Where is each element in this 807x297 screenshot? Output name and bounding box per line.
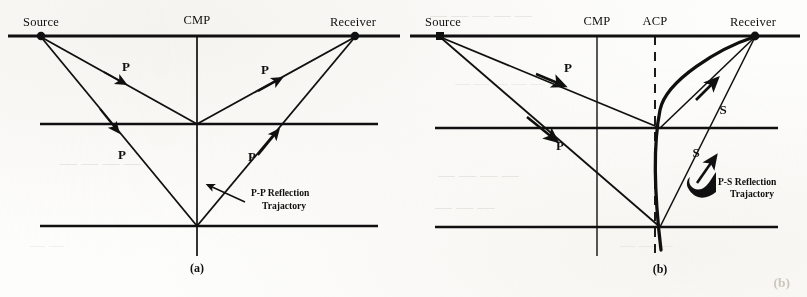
panel-a-arrow-p-down-shallow [104, 72, 122, 82]
panel-a-wave-label-2: P [261, 62, 269, 77]
panel-b-wave-label-3: S [719, 102, 726, 117]
svg-text:— — — —: — — — — [437, 165, 520, 184]
panel-a-cmp-label: CMP [183, 13, 210, 27]
panel-a-receiver-marker [351, 32, 359, 40]
panel-b-source-marker [436, 32, 444, 40]
panel-b-annotation-line1: P-S Reflection [718, 176, 777, 187]
panel-a-source-marker [37, 32, 45, 40]
svg-text:— — —: — — — [434, 197, 496, 216]
panel-a-ray-p-down-deep [41, 37, 197, 226]
figure-root: — — — — — — — — — — — — — — — — — — — — … [0, 0, 807, 297]
seismic-raypath-figure: — — — — — — — — — — — — — — — — — — — — … [0, 0, 807, 297]
figure-caption-fragment: (b) [774, 275, 791, 290]
panel-b-arrow-s-up-deep [697, 160, 713, 183]
panel-a-wave-label-1: P [122, 59, 130, 74]
panel-b-source-label: Source [425, 15, 461, 29]
panel-a-annotation-line1: P-P Reflection [251, 187, 310, 198]
svg-text:— —: — — [29, 237, 65, 253]
panel-b-ray-s-up-shallow [660, 37, 755, 128]
panel-a-source-label: Source [23, 15, 59, 29]
panel-b-cmp-label: CMP [583, 14, 610, 28]
panel-b-receiver-marker [751, 32, 760, 41]
panel-b-wave-label-1: P [564, 60, 572, 75]
panel-b-annotation-line2: Trajactory [730, 188, 774, 199]
panel-a: Source CMP Receiver P P P P P-P Reflecti… [8, 13, 400, 275]
panel-b-acp-label: ACP [643, 14, 668, 28]
panel-a-receiver-label: Receiver [330, 15, 377, 29]
svg-text:— — — —: — — — — [59, 153, 142, 172]
panel-b-wave-label-4: S [692, 145, 699, 160]
panel-a-annotation-line2: Trajactory [262, 200, 306, 211]
panel-a-letter: (a) [190, 261, 204, 275]
panel-a-wave-label-4: P [248, 149, 256, 164]
panel-a-arrow-p-down-deep [100, 109, 116, 129]
panel-a-wave-label-3: P [118, 147, 126, 162]
panel-b: Source CMP ACP Receiver P P S S P-S Refl… [410, 14, 800, 276]
panel-a-arrow-p-up-shallow [258, 80, 278, 91]
panel-b-letter: (b) [653, 262, 668, 276]
panel-b-wave-label-2: P [556, 138, 564, 153]
svg-text:— — — — — —: — — — — — — [454, 75, 565, 91]
panel-b-receiver-label: Receiver [730, 15, 777, 29]
svg-text:— — —: — — — [619, 237, 674, 253]
panel-a-arrow-p-up-deep [258, 133, 276, 155]
